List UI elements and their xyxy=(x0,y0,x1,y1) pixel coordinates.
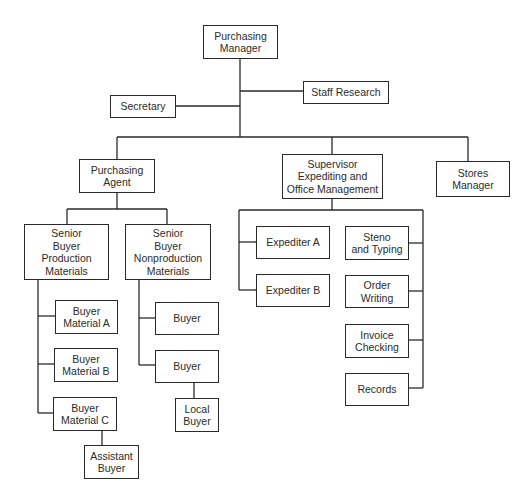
node-label: Senior Buyer Production Materials xyxy=(41,227,91,277)
node-label: Buyer xyxy=(173,312,200,325)
node-local-buyer[interactable]: Local Buyer xyxy=(175,398,219,432)
node-steno-typing[interactable]: Steno and Typing xyxy=(345,226,409,260)
node-label: Secretary xyxy=(121,100,166,113)
node-records[interactable]: Records xyxy=(345,373,409,406)
node-expediter-b[interactable]: Expediter B xyxy=(256,274,330,307)
node-order-writing[interactable]: Order Writing xyxy=(345,275,409,308)
node-stores-manager[interactable]: Stores Manager xyxy=(436,161,510,197)
node-invoice-checking[interactable]: Invoice Checking xyxy=(345,324,409,358)
node-label: Staff Research xyxy=(311,86,380,99)
node-buyer-material-b[interactable]: Buyer Material B xyxy=(54,348,118,382)
node-supervisor-expediting[interactable]: Supervisor Expediting and Office Managem… xyxy=(282,154,383,199)
node-label: Supervisor Expediting and Office Managem… xyxy=(287,158,378,196)
node-label: Buyer Material B xyxy=(62,353,109,378)
node-purchasing-agent[interactable]: Purchasing Agent xyxy=(79,159,155,193)
node-assistant-buyer[interactable]: Assistant Buyer xyxy=(84,445,139,479)
node-label: Senior Buyer Nonproduction Materials xyxy=(134,227,202,277)
node-label: Local Buyer xyxy=(183,403,210,428)
node-buyer-material-a[interactable]: Buyer Material A xyxy=(55,300,118,334)
node-label: Assistant Buyer xyxy=(90,450,133,475)
node-buyer-1[interactable]: Buyer xyxy=(155,302,219,335)
node-label: Invoice Checking xyxy=(355,329,399,354)
node-senior-buyer-production[interactable]: Senior Buyer Production Materials xyxy=(24,224,109,280)
node-label: Order Writing xyxy=(361,279,393,304)
node-secretary[interactable]: Secretary xyxy=(110,95,176,118)
node-staff-research[interactable]: Staff Research xyxy=(303,81,389,104)
node-buyer-material-c[interactable]: Buyer Material C xyxy=(53,397,117,431)
node-purchasing-manager[interactable]: Purchasing Manager xyxy=(203,25,278,59)
node-label: Purchasing Manager xyxy=(214,30,267,55)
node-label: Buyer Material C xyxy=(61,402,109,427)
node-label: Steno and Typing xyxy=(351,231,402,256)
node-label: Records xyxy=(357,383,396,396)
node-buyer-2[interactable]: Buyer xyxy=(155,350,219,383)
node-label: Expediter B xyxy=(266,284,320,297)
node-expediter-a[interactable]: Expediter A xyxy=(256,226,330,259)
node-label: Stores Manager xyxy=(452,167,493,192)
node-label: Purchasing Agent xyxy=(91,164,144,189)
node-senior-buyer-nonproduction[interactable]: Senior Buyer Nonproduction Materials xyxy=(125,224,211,280)
node-label: Buyer Material A xyxy=(63,305,110,330)
node-label: Expediter A xyxy=(266,236,320,249)
node-label: Buyer xyxy=(173,360,200,373)
